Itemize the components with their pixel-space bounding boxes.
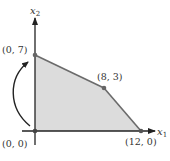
feasible-region-diagram: x1 x2 (0, 0) (12, 0) (8, 3) (0, 7) [0,0,170,161]
vertex-8-3 [102,86,107,91]
vertex-label-0-7: (0, 7) [2,44,28,55]
x1-axis-label: x1 [157,126,167,139]
vertex-label-12-0: (12, 0) [125,136,157,147]
feasible-region-shape [35,55,141,131]
vertex-label-8-3: (8, 3) [97,71,123,82]
vertex-label-0-0: (0, 0) [2,138,28,149]
curved-arrow-icon [13,62,30,126]
x2-axis-label: x2 [30,5,40,18]
vertex-0-0 [33,129,38,134]
vertex-12-0 [139,129,144,134]
vertex-0-7 [33,53,38,58]
